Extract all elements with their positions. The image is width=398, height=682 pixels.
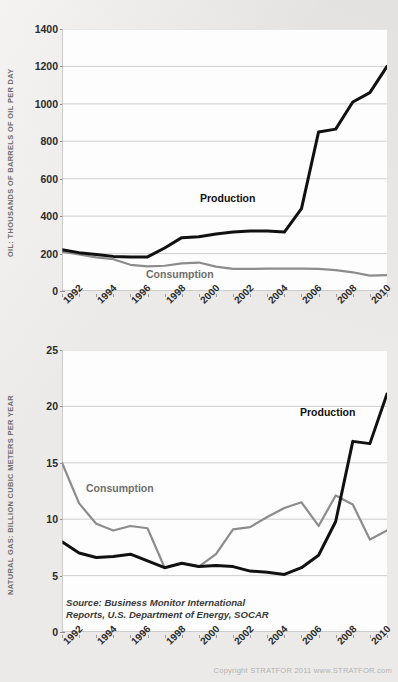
- source-note: Source: Business Monitor International R…: [66, 597, 269, 621]
- copyright-notice: Copyright STRATFOR 2011 www.STRATFOR.com: [214, 666, 392, 675]
- oil-x-axis-labels: 1992199419961998200020022004200620082010: [62, 294, 387, 338]
- y-tick-label: 5: [52, 570, 58, 582]
- oil-plot-svg: [62, 29, 387, 291]
- oil-y-axis-labels: 0200400600800100012001400: [18, 29, 58, 291]
- gas-production-label: Production: [300, 406, 355, 418]
- oil-chart: OIL: THOUSANDS OF BARRELS OF OIL PER DAY…: [0, 0, 398, 341]
- y-tick-label: 400: [40, 210, 58, 222]
- oil-plot-area: [62, 29, 387, 291]
- gas-y-axis-title: NATURAL GAS: BILLION CUBIC METERS PER YE…: [6, 363, 15, 628]
- y-tick-mark: [60, 632, 65, 633]
- y-tick-label: 0: [52, 285, 58, 297]
- y-tick-label: 800: [40, 135, 58, 147]
- y-tick-label: 25: [46, 344, 58, 356]
- y-tick-label: 1400: [35, 23, 58, 35]
- oil-y-axis-title: OIL: THOUSANDS OF BARRELS OF OIL PER DAY: [6, 38, 15, 288]
- y-tick-label: 1200: [35, 60, 58, 72]
- series-line-production: [62, 66, 387, 257]
- natural-gas-chart: NATURAL GAS: BILLION CUBIC METERS PER YE…: [0, 341, 398, 682]
- oil-production-label: Production: [200, 192, 255, 204]
- y-tick-label: 0: [52, 626, 58, 638]
- y-tick-mark: [60, 291, 65, 292]
- y-tick-label: 600: [40, 173, 58, 185]
- oil-consumption-label: Consumption: [146, 268, 214, 280]
- y-tick-label: 20: [46, 400, 58, 412]
- y-tick-label: 10: [46, 513, 58, 525]
- y-tick-label: 1000: [35, 98, 58, 110]
- gas-consumption-label: Consumption: [86, 482, 154, 494]
- y-tick-label: 200: [40, 248, 58, 260]
- y-tick-label: 15: [46, 457, 58, 469]
- gas-y-axis-labels: 0510152025: [18, 350, 58, 632]
